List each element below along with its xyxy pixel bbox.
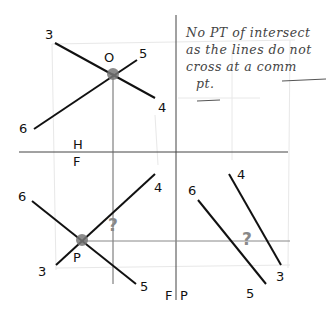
- fold-label-f-left: F: [165, 289, 172, 302]
- handwritten-note: No PT of intersect as the lines do not c…: [186, 24, 326, 92]
- profile-label-4: 4: [237, 168, 245, 181]
- note-underline-pt: [197, 100, 220, 101]
- top-line-6-5: [34, 60, 137, 129]
- fold-label-f-upper: F: [73, 155, 80, 168]
- note-line-2: as the lines do not: [186, 41, 326, 58]
- top-label-5: 5: [139, 47, 147, 60]
- intersection-dot-o: [107, 68, 119, 80]
- front-label-4: 4: [154, 181, 162, 194]
- profile-label-5: 5: [246, 287, 254, 300]
- profile-question-mark: ?: [242, 231, 252, 248]
- front-line-3-4: [56, 174, 155, 265]
- front-question-mark: ?: [108, 217, 118, 234]
- top-label-4: 4: [158, 101, 166, 114]
- intersection-dot-p: [76, 234, 88, 246]
- fold-label-p-right: P: [180, 289, 188, 302]
- note-line-4: pt.: [186, 75, 326, 92]
- profile-line-4-3: [229, 174, 281, 265]
- note-line-1: No PT of intersect: [186, 24, 326, 41]
- point-label-o: O: [104, 51, 114, 64]
- front-label-3: 3: [38, 265, 46, 278]
- note-line-3: cross at a comm: [186, 58, 326, 75]
- profile-label-6: 6: [188, 184, 196, 197]
- top-label-6: 6: [19, 122, 27, 135]
- top-label-3: 3: [45, 28, 53, 41]
- profile-label-3: 3: [276, 270, 284, 283]
- profile-line-6-5: [198, 200, 266, 284]
- front-label-6: 6: [18, 190, 26, 203]
- point-label-p: P: [73, 251, 81, 264]
- front-label-5: 5: [140, 280, 148, 293]
- fold-label-h: H: [73, 138, 83, 151]
